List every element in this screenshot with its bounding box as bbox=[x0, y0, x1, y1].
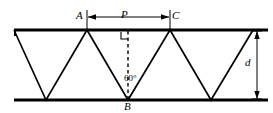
label-angle-60-degrees: 60° bbox=[124, 74, 137, 83]
truss-figure: A P C B d 60° bbox=[0, 0, 273, 113]
dimension-p-arrow-right-icon bbox=[161, 14, 169, 20]
label-panel-length-p: P bbox=[121, 9, 128, 20]
web-member-zigzag bbox=[14, 30, 253, 100]
right-angle-marker-icon bbox=[121, 32, 128, 39]
dimension-d-arrow-top-icon bbox=[254, 31, 259, 39]
label-point-b: B bbox=[124, 101, 131, 112]
label-point-a: A bbox=[76, 10, 83, 21]
dimension-p-arrow-left-icon bbox=[88, 14, 96, 20]
label-depth-d: d bbox=[245, 57, 251, 68]
label-point-c: C bbox=[172, 10, 179, 21]
truss-drawing bbox=[0, 0, 273, 113]
dimension-d-arrow-bottom-icon bbox=[254, 91, 259, 99]
